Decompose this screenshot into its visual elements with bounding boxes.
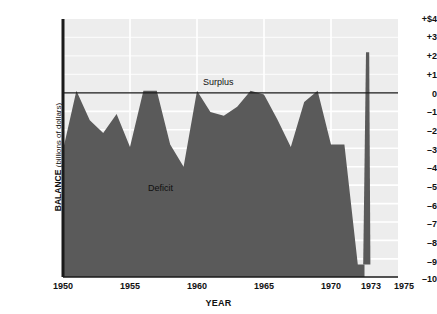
x-tick-label: 1975	[394, 282, 414, 291]
plot-area	[0, 0, 437, 314]
x-axis-title: YEAR	[0, 298, 437, 308]
x-tick-label: 1955	[120, 282, 140, 291]
x-tick-label: 1965	[254, 282, 274, 291]
x-tick-label: 1960	[187, 282, 207, 291]
chart-root: BALANCE (billions of dollars) +$4 +3 +2 …	[0, 0, 437, 314]
surplus-annotation: Surplus	[203, 77, 234, 87]
x-tick-label: 1973	[361, 282, 381, 291]
x-tick-label: 1950	[53, 282, 73, 291]
x-tick-label: 1970	[321, 282, 341, 291]
deficit-annotation: Deficit	[148, 183, 173, 193]
